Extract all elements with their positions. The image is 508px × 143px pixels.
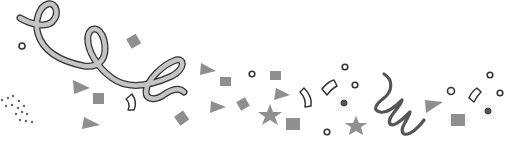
- confetti-speckles: [1, 95, 33, 123]
- confetti-stars: [258, 104, 367, 135]
- confetti-illustration: [0, 0, 508, 143]
- confetti-dark-dots: [341, 100, 491, 114]
- streamer-ribbon-left: [20, 4, 184, 99]
- streamer-curl-right: [376, 74, 424, 134]
